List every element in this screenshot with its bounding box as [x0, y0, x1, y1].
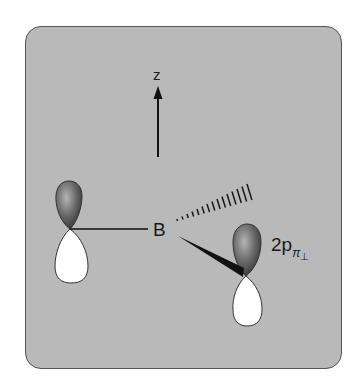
- orbital-label-main: 2p: [271, 234, 292, 255]
- boron-atom-label: B: [153, 219, 166, 241]
- z-axis-arrow: [154, 86, 163, 157]
- hashed-wedge-bond: [177, 184, 252, 221]
- orbital-label-sub-subscript: ⊥: [300, 251, 309, 262]
- orbital-diagram: [0, 0, 359, 385]
- orbital-label-subscript: π: [292, 246, 300, 260]
- z-axis-label: z: [153, 66, 161, 83]
- orbital-label: 2pπ⊥: [271, 234, 309, 256]
- left-p-orbital: [55, 181, 88, 283]
- right-p-orbital: [233, 224, 262, 326]
